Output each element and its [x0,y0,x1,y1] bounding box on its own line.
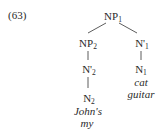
node-n1: N1 [135,63,147,75]
node-n2: N2 [83,92,95,104]
node-label: NP [104,10,118,22]
node-label: N' [135,37,145,49]
node-nbar2: N'2 [82,63,96,75]
node-nbar1: N'1 [135,37,149,49]
word-johns: John's [74,105,102,117]
node-subscript: 1 [145,42,149,51]
node-label: N [135,63,143,75]
node-subscript: 2 [93,42,97,51]
node-label: N' [82,63,92,75]
node-subscript: 1 [118,15,122,24]
word-my: my [81,117,94,129]
node-subscript: 2 [92,68,96,77]
word-cat: cat [134,76,147,88]
node-label: NP [79,37,93,49]
node-np2: NP2 [79,37,97,49]
word-guitar: guitar [128,88,155,100]
node-label: N [83,92,91,104]
node-np1: NP1 [104,10,122,22]
